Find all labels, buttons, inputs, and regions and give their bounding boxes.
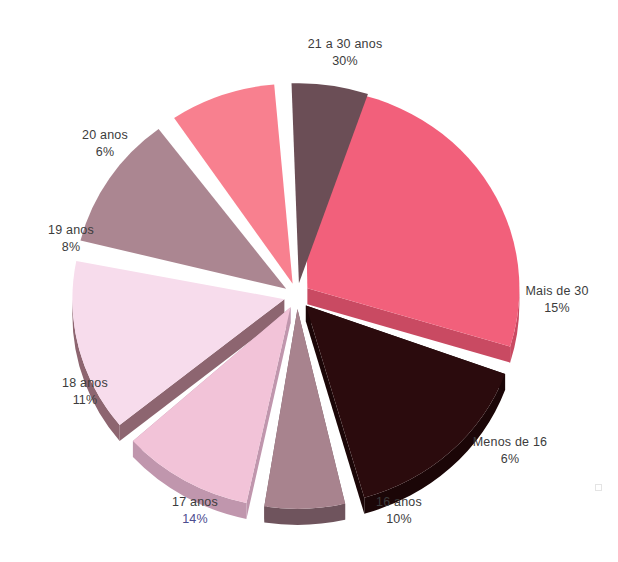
slice-label-name: 20 anos: [62, 127, 148, 144]
slice-label-name: 17 anos: [152, 494, 238, 511]
pie-chart-canvas: [0, 0, 618, 562]
slice-label-percent: 15%: [505, 300, 609, 317]
slice-label-percent: 11%: [42, 392, 128, 409]
slice-label-percent: 30%: [280, 53, 410, 70]
slice-label-19-anos: 19 anos 8%: [28, 222, 114, 255]
slice-label-menos-de-16: Menos de 16 6%: [452, 434, 568, 467]
slice-label-percent: 14%: [152, 511, 238, 528]
slice-label-name: Mais de 30: [505, 283, 609, 300]
slice-label-name: 16 anos: [356, 494, 442, 511]
slice-label-21-a-30-anos: 21 a 30 anos 30%: [280, 36, 410, 69]
slice-label-mais-de-30: Mais de 30 15%: [505, 283, 609, 316]
slice-label-name: 19 anos: [28, 222, 114, 239]
slice-label-20-anos: 20 anos 6%: [62, 127, 148, 160]
slice-label-percent: 6%: [62, 144, 148, 161]
pie-chart: 21 a 30 anos 30% Mais de 30 15% Menos de…: [0, 0, 618, 562]
slice-label-name: Menos de 16: [452, 434, 568, 451]
slice-label-percent: 8%: [28, 239, 114, 256]
scan-artifact: [595, 484, 602, 491]
slice-label-percent: 10%: [356, 511, 442, 528]
slice-label-17-anos: 17 anos 14%: [152, 494, 238, 527]
slice-label-name: 18 anos: [42, 375, 128, 392]
slice-label-percent: 6%: [452, 451, 568, 468]
slice-label-18-anos: 18 anos 11%: [42, 375, 128, 408]
slice-label-name: 21 a 30 anos: [280, 36, 410, 53]
slice-label-16-anos: 16 anos 10%: [356, 494, 442, 527]
